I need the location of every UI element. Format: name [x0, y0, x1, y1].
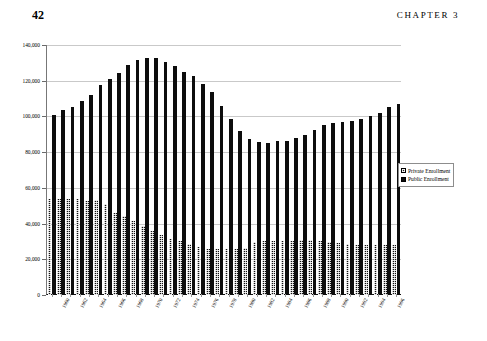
y-axis-labels: 020,00040,00060,00080,000100,000120,0001…: [0, 30, 40, 300]
x-axis-tick: [368, 294, 369, 297]
x-axis-tick: [229, 294, 230, 297]
bar-private-enrollment: [85, 201, 89, 295]
bar-group: [336, 45, 345, 295]
y-axis-tick-label: 100,000: [0, 113, 40, 119]
x-axis-tick: [266, 294, 267, 297]
bar-private-enrollment: [206, 249, 210, 295]
bar-group: [47, 45, 56, 295]
bar-private-enrollment: [364, 245, 368, 295]
bar-private-enrollment: [169, 239, 173, 295]
bar-public-enrollment: [248, 139, 252, 295]
x-axis-tick: [89, 294, 90, 297]
bar-public-enrollment: [369, 116, 373, 295]
y-axis-tick-label: 40,000: [0, 221, 40, 227]
bar-public-enrollment: [341, 122, 345, 295]
x-axis-tick-label: 1970: [153, 297, 163, 309]
x-axis-tick-label: 1996: [396, 297, 406, 309]
bar-group: [326, 45, 335, 295]
bar-public-enrollment: [164, 62, 168, 295]
bar-private-enrollment: [336, 243, 340, 295]
bar-group: [187, 45, 196, 295]
x-axis-tick: [52, 294, 53, 297]
x-axis-tick-label: 1966: [116, 297, 126, 309]
bar-public-enrollment: [99, 85, 103, 295]
bar-public-enrollment: [80, 101, 84, 295]
x-axis-tick: [154, 294, 155, 297]
bar-public-enrollment: [182, 72, 186, 295]
x-axis-tick: [350, 294, 351, 297]
x-axis-tick-label: 1968: [135, 297, 145, 309]
x-axis-tick-label: 1980: [246, 297, 256, 309]
y-axis-tick-label: 80,000: [0, 149, 40, 155]
bar-public-enrollment: [350, 121, 354, 295]
x-axis-tick: [210, 294, 211, 297]
bar-private-enrollment: [104, 204, 108, 295]
bar-private-enrollment: [197, 247, 201, 295]
bar-private-enrollment: [159, 235, 163, 295]
bar-group: [382, 45, 391, 295]
bar-group: [252, 45, 261, 295]
x-axis-tick: [359, 294, 360, 297]
bar-group: [94, 45, 103, 295]
x-axis-tick-label: 1964: [97, 297, 107, 309]
bar-private-enrollment: [113, 213, 117, 295]
bar-public-enrollment: [220, 106, 224, 295]
bar-public-enrollment: [378, 113, 382, 295]
bar-private-enrollment: [346, 244, 350, 295]
bar-group: [354, 45, 363, 295]
bar-group: [56, 45, 65, 295]
x-axis-tick: [191, 294, 192, 297]
legend-swatch-private-icon: [401, 168, 406, 173]
x-axis-tick-label: 1976: [209, 297, 219, 309]
chart-legend: Private Enrollment Public Enrollment: [398, 163, 454, 187]
x-axis-tick-label: 1962: [79, 297, 89, 309]
legend-item-public: Public Enrollment: [401, 175, 450, 183]
x-axis-tick: [70, 294, 71, 297]
x-axis-tick: [303, 294, 304, 297]
x-axis-tick-label: 1978: [228, 297, 238, 309]
bar-private-enrollment: [141, 226, 145, 295]
bar-group: [243, 45, 252, 295]
y-axis-tick-label: 20,000: [0, 256, 40, 262]
bar-private-enrollment: [122, 216, 126, 295]
bar-group: [233, 45, 242, 295]
bar-private-enrollment: [299, 240, 303, 295]
bar-group: [364, 45, 373, 295]
x-axis-tick: [173, 294, 174, 297]
bar-public-enrollment: [126, 65, 130, 295]
bar-group: [84, 45, 93, 295]
bar-group: [196, 45, 205, 295]
x-axis-tick: [387, 294, 388, 297]
bar-group: [75, 45, 84, 295]
x-axis-tick: [61, 294, 62, 297]
bar-private-enrollment: [225, 249, 229, 295]
x-axis-tick: [396, 294, 397, 297]
bar-public-enrollment: [136, 60, 140, 295]
bar-private-enrollment: [327, 242, 331, 295]
bar-private-enrollment: [187, 244, 191, 295]
bar-public-enrollment: [294, 138, 298, 295]
y-axis-tick: [42, 295, 46, 296]
bar-private-enrollment: [262, 241, 266, 295]
bar-private-enrollment: [374, 245, 378, 295]
x-axis-tick-label: 1990: [340, 297, 350, 309]
x-axis-tick-label: 1982: [265, 297, 275, 309]
bar-private-enrollment: [281, 241, 285, 295]
bar-public-enrollment: [71, 107, 75, 295]
bar-public-enrollment: [173, 66, 177, 295]
bar-public-enrollment: [331, 123, 335, 295]
x-axis-tick: [182, 294, 183, 297]
bar-public-enrollment: [89, 95, 93, 295]
x-axis-tick-label: 1960: [60, 297, 70, 309]
running-head: CHAPTER 3: [397, 10, 459, 20]
x-axis-tick: [163, 294, 164, 297]
bar-private-enrollment: [76, 199, 80, 295]
x-axis-tick: [126, 294, 127, 297]
bar-public-enrollment: [397, 104, 401, 295]
bar-group: [140, 45, 149, 295]
y-axis-tick-label: 140,000: [0, 42, 40, 48]
legend-swatch-public-icon: [401, 177, 406, 182]
x-axis-tick: [247, 294, 248, 297]
x-axis-tick: [322, 294, 323, 297]
bar-private-enrollment: [150, 231, 154, 295]
